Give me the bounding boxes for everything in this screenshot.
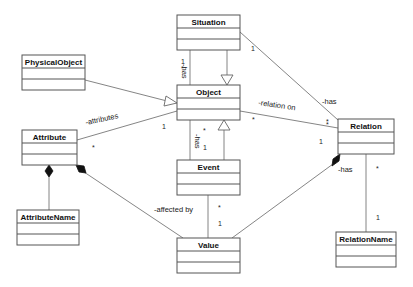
generalization-arrow-icon (221, 75, 233, 85)
class-name: Attribute (33, 133, 67, 142)
class-relation[interactable]: Relation (338, 119, 394, 154)
class-name: AttributeName (20, 213, 76, 222)
class-relationname[interactable]: RelationName (336, 232, 396, 267)
label-relation-value-has: -has (338, 165, 353, 174)
class-physicalobject[interactable]: PhysicalObject (22, 55, 85, 90)
edge-physicalobject-object (85, 80, 167, 101)
generalization-arrow-icon (164, 96, 177, 106)
uml-class-diagram: Situation PhysicalObject Object Attribut… (0, 0, 413, 287)
label-object-event-has: -has (193, 134, 202, 149)
mult-obj-event-star: * (203, 127, 206, 134)
class-name: Event (198, 163, 220, 172)
composition-diamond-icon (76, 165, 86, 173)
mult-sit-rel-one: 1 (251, 45, 255, 52)
class-name: Situation (191, 18, 225, 27)
generalization-arrow-icon (218, 120, 230, 130)
composition-diamond-icon (45, 165, 53, 177)
class-attribute[interactable]: Attribute (22, 130, 77, 165)
class-event[interactable]: Event (177, 160, 240, 195)
mult-rel-name-one: 1 (376, 214, 380, 221)
label-situation-relation-has: -has (322, 97, 337, 106)
class-attributename[interactable]: AttributeName (17, 210, 79, 245)
mult-rel-name-star: * (376, 165, 379, 172)
class-name: Value (198, 241, 219, 250)
mult-attr-attr-star: * (92, 144, 95, 151)
mult-event-value-star: * (218, 204, 221, 211)
edge-relation-value (232, 164, 333, 238)
label-affected-by: -affected by (154, 205, 193, 214)
mult-rel-value-one: 1 (319, 138, 323, 145)
class-name: Relation (350, 122, 382, 131)
mult-event-value-one: 1 (218, 220, 222, 227)
label-relation-on: -relation on (258, 98, 296, 112)
label-attributes: -attributes (85, 111, 120, 127)
mult-sit-obj-star: * (181, 65, 184, 72)
class-situation[interactable]: Situation (177, 15, 240, 50)
class-name: Object (196, 88, 221, 97)
mult-relon-obj-star: * (252, 116, 255, 123)
class-object[interactable]: Object (177, 85, 240, 120)
mult-sit-obj-one: 1 (181, 58, 185, 65)
mult-attr-obj-one: 1 (162, 123, 166, 130)
mult-relon-rel-star: * (326, 121, 329, 128)
class-value[interactable]: Value (177, 238, 240, 273)
class-name: PhysicalObject (25, 58, 83, 67)
class-name: RelationName (339, 235, 393, 244)
mult-obj-event-one: 1 (203, 144, 207, 151)
